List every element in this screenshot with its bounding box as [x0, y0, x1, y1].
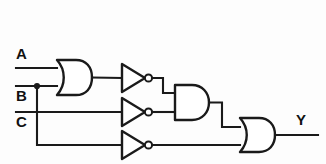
wire-or1-out	[92, 78, 122, 79]
not-gate-3	[122, 131, 145, 159]
and-gate-1	[175, 85, 209, 120]
not-gate-1	[122, 64, 145, 92]
input-label-b: B	[16, 88, 27, 103]
or-gate-1	[57, 60, 92, 95]
wire-and-to-or2	[209, 103, 240, 128]
schematic-svg	[0, 0, 326, 164]
input-label-c: C	[16, 114, 27, 129]
not-gate-2	[122, 98, 145, 126]
output-label-y: Y	[296, 112, 306, 127]
circuit-diagram-canvas: A B C Y	[0, 0, 326, 164]
input-label-a: A	[16, 46, 27, 61]
junction-dot-b	[34, 83, 40, 89]
or-gate-2	[240, 118, 275, 152]
wire-inv1-to-and	[152, 78, 175, 93]
